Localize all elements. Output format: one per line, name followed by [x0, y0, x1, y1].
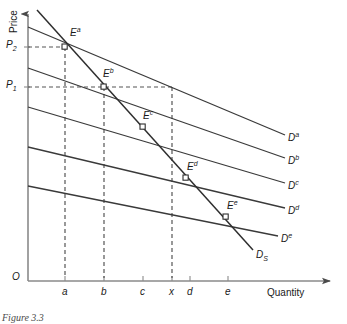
price-tick-p2-base: P [6, 39, 13, 50]
equilibrium-marker-Ee [223, 214, 228, 219]
quantity-tick-label-c: c [140, 287, 145, 297]
x-axis-label: Quantity [267, 288, 304, 298]
demand-label-De-superscript: e [288, 232, 292, 239]
price-tick-label-p1: P1 [6, 80, 17, 92]
equilibrium-label-Ec: Ec [143, 109, 153, 121]
equilibrium-label-Eb-superscript: b [110, 67, 114, 74]
equilibrium-label-Ee-base: E [227, 200, 234, 211]
long-run-demand-curve-Ds [37, 10, 253, 250]
demand-label-Dd-superscript: d [295, 204, 299, 211]
demand-curve-label-Da: Da [288, 131, 299, 143]
equilibrium-label-Ec-base: E [143, 110, 150, 121]
demand-label-Da-superscript: a [295, 131, 299, 138]
demand-curve-label-Dc: Dc [288, 179, 299, 191]
equilibrium-marker-Ec [140, 124, 145, 129]
demand-curve-label-Dd: Dd [288, 204, 299, 216]
demand-curve-label-De: De [281, 232, 292, 244]
equilibrium-label-Ee: Ee [227, 199, 238, 211]
quantity-tick-label-e: e [225, 287, 231, 297]
demand-curve-Dd [28, 147, 285, 208]
price-tick-p1-subscript: 1 [13, 85, 17, 92]
demand-curve-label-Db: Db [288, 154, 299, 166]
equilibrium-label-Ee-superscript: e [234, 199, 238, 206]
y-axis-ticks [24, 47, 30, 87]
equilibrium-label-Ec-superscript: c [150, 109, 154, 116]
quantity-tick-label-b: b [101, 287, 107, 297]
equilibrium-label-Eb-base: E [103, 68, 110, 79]
quantity-tick-label-x: x [169, 287, 174, 297]
quantity-tick-label-a: a [62, 287, 68, 297]
price-tick-label-p2: P2 [6, 40, 17, 52]
origin-label: O [12, 272, 20, 282]
equilibrium-label-Ea: Ea [70, 26, 81, 38]
equilibrium-marker-Eb [101, 84, 106, 89]
equilibrium-marker-Ea [62, 44, 67, 49]
equilibrium-label-Ea-superscript: a [77, 26, 81, 33]
quantity-tick-label-d: d [187, 287, 193, 297]
equilibrium-marker-Ed [183, 175, 188, 180]
equilibrium-label-Ed-base: E [187, 161, 194, 172]
dashed-guides [28, 47, 172, 278]
price-tick-p1-base: P [6, 79, 13, 90]
demand-curves [28, 27, 285, 236]
long-run-demand-label-Ds: DS [256, 250, 268, 262]
economics-figure: Price Quantity O P2 P1 a b c x d e Da Db… [0, 0, 347, 324]
equilibrium-label-Ed: Ed [187, 160, 198, 172]
demand-label-Dc-superscript: c [295, 179, 299, 186]
y-axis-label: Price [8, 0, 19, 44]
equilibrium-label-Ea-base: E [70, 27, 77, 38]
figure-caption: Figure 3.3 [2, 312, 44, 323]
equilibrium-label-Eb: Eb [103, 67, 114, 79]
equilibrium-label-Ed-superscript: d [194, 160, 198, 167]
demand-label-Db-superscript: b [295, 154, 299, 161]
long-run-label-Ds-subscript: S [263, 255, 268, 262]
equilibrium-markers [62, 44, 228, 219]
price-tick-p2-subscript: 2 [13, 45, 17, 52]
